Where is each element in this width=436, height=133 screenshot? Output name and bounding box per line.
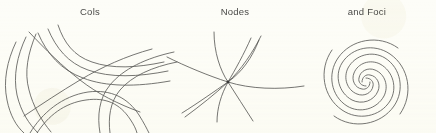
panel-label-nodes: Nodes: [165, 6, 305, 18]
flow-curve: [15, 37, 38, 133]
separatrix-curve: [24, 49, 152, 116]
flow-curve: [58, 25, 164, 67]
panel-foci: and Foci: [298, 0, 436, 133]
spiral-arm: [334, 54, 400, 124]
panel-label-foci: and Foci: [298, 6, 436, 18]
spiral-arm-group: [324, 40, 408, 124]
node-curve: [167, 57, 304, 88]
panel-cols: Cols: [0, 0, 180, 133]
focus-spiral-phase-portrait-icon: [298, 20, 436, 133]
flow-curve: [5, 42, 24, 133]
node-svg: [165, 20, 305, 133]
spiral-arm: [332, 40, 398, 110]
flow-curve: [30, 91, 149, 133]
node-phase-portrait-icon: [165, 20, 305, 133]
phase-portrait-figure: Cols: [0, 0, 436, 133]
saddle-point-svg: [0, 20, 180, 133]
node-curve: [182, 40, 259, 113]
node-curve: [185, 36, 261, 117]
focus-svg: [298, 20, 436, 133]
spiral-arm: [338, 48, 408, 114]
flow-curve: [27, 34, 51, 132]
panel-nodes: Nodes: [165, 0, 305, 133]
saddle-point-phase-portrait-icon: [0, 20, 180, 133]
spiral-arm: [324, 50, 394, 116]
panel-label-cols: Cols: [0, 6, 180, 18]
node-equilibrium-point: [227, 81, 230, 84]
